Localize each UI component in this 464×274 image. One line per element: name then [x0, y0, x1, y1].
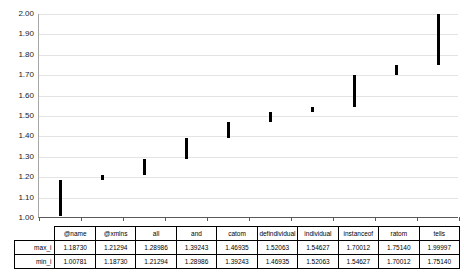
table-cell: 1.52063	[257, 241, 297, 255]
y-axis-tick-label: 1.40	[18, 132, 34, 140]
bars-layer	[39, 14, 458, 217]
table-body: max_i1.187301.212941.289861.392431.46935…	[15, 241, 460, 269]
bar-all	[143, 159, 146, 175]
table-cell: 1.99997	[419, 241, 459, 255]
table-column-header: all	[136, 227, 176, 241]
chart-plot-wrapper: 2.001.901.801.701.601.501.401.301.201.10…	[0, 0, 464, 232]
x-axis-tick	[249, 217, 250, 221]
table-cell: 1.00781	[55, 255, 95, 269]
table-cell: 1.75140	[419, 255, 459, 269]
table-row: min_i1.007811.187301.212941.289861.39243…	[15, 255, 460, 269]
table-corner-cell	[15, 227, 55, 241]
x-axis-tick	[291, 217, 292, 221]
table-row: max_i1.187301.212941.289861.392431.46935…	[15, 241, 460, 255]
table-row-header: max_i	[15, 241, 55, 255]
x-axis-tick	[39, 217, 40, 221]
table-cell: 1.52063	[298, 255, 338, 269]
table-cell: 1.21294	[95, 241, 135, 255]
bar-@name	[59, 180, 62, 217]
table-cell: 1.46935	[257, 255, 297, 269]
y-axis-tick-label: 1.30	[18, 153, 34, 161]
data-table: @name@xmlnsallandcatomdefindividualindiv…	[14, 226, 460, 269]
table-column-header: individual	[298, 227, 338, 241]
bar-@xmlns	[101, 175, 104, 180]
plot-area	[38, 14, 458, 218]
bar-catom	[227, 122, 230, 138]
table-cell: 1.18730	[55, 241, 95, 255]
table-column-header: ratom	[379, 227, 419, 241]
table-column-header: and	[176, 227, 216, 241]
x-axis-tick	[417, 217, 418, 221]
floating-bar-chart: 2.001.901.801.701.601.501.401.301.201.10…	[0, 0, 464, 274]
table-cell: 1.54627	[298, 241, 338, 255]
table-header: @name@xmlnsallandcatomdefindividualindiv…	[15, 227, 460, 241]
y-axis-tick-label: 1.20	[18, 173, 34, 181]
table-cell: 1.39243	[176, 241, 216, 255]
y-axis-tick-label: 1.80	[18, 51, 34, 59]
x-axis-ticks	[39, 217, 458, 221]
x-axis-tick	[165, 217, 166, 221]
table-column-header: @xmlns	[95, 227, 135, 241]
x-axis-tick	[375, 217, 376, 221]
bar-ratom	[395, 65, 398, 75]
table-cell: 1.21294	[136, 255, 176, 269]
bar-individual	[311, 107, 314, 112]
y-axis-tick-label: 1.70	[18, 71, 34, 79]
table-column-header: defindividual	[257, 227, 297, 241]
table-column-header: @name	[55, 227, 95, 241]
table-column-header: instanceof	[338, 227, 378, 241]
y-axis-tick-label: 1.90	[18, 30, 34, 38]
x-axis-tick	[459, 217, 460, 221]
table-column-header: tells	[419, 227, 459, 241]
bar-and	[185, 138, 188, 159]
bar-tells	[437, 14, 440, 65]
bar-instanceof	[353, 75, 356, 106]
table-cell: 1.54627	[338, 255, 378, 269]
y-axis-tick-label: 1.60	[18, 92, 34, 100]
y-axis-tick-label: 1.10	[18, 194, 34, 202]
table-cell: 1.46935	[217, 241, 257, 255]
table-cell: 1.28986	[136, 241, 176, 255]
table-header-row: @name@xmlnsallandcatomdefindividualindiv…	[15, 227, 460, 241]
x-axis-tick	[207, 217, 208, 221]
table-column-header: catom	[217, 227, 257, 241]
x-axis-tick	[123, 217, 124, 221]
y-axis-tick-label: 2.00	[18, 10, 34, 18]
y-axis-tick-label: 1.00	[18, 214, 34, 222]
y-axis-tick-label: 1.50	[18, 112, 34, 120]
x-axis-tick	[333, 217, 334, 221]
table-row-header: min_i	[15, 255, 55, 269]
table-cell: 1.75140	[379, 241, 419, 255]
table-cell: 1.39243	[217, 255, 257, 269]
table-cell: 1.18730	[95, 255, 135, 269]
table-cell: 1.28986	[176, 255, 216, 269]
x-axis-tick	[81, 217, 82, 221]
bar-defindividual	[269, 112, 272, 122]
y-axis: 2.001.901.801.701.601.501.401.301.201.10…	[0, 0, 38, 232]
table-cell: 1.70012	[379, 255, 419, 269]
table-cell: 1.70012	[338, 241, 378, 255]
